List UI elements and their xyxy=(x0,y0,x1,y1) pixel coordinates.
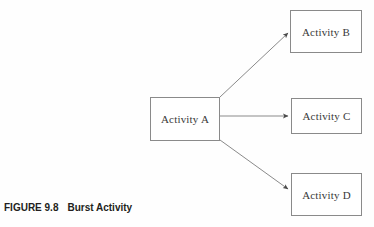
node-activity-c[interactable]: Activity C xyxy=(291,98,362,134)
figure-caption-number: FIGURE 9.8 xyxy=(4,202,58,213)
figure-container: Activity A Activity B Activity C Activit… xyxy=(0,0,374,227)
node-activity-c-label: Activity C xyxy=(302,110,350,122)
node-activity-d-label: Activity D xyxy=(302,189,351,201)
node-activity-d[interactable]: Activity D xyxy=(291,173,362,216)
arrow-activity-a-to-activity-d xyxy=(220,140,288,189)
node-activity-a-label: Activity A xyxy=(161,113,209,125)
arrow-activity-a-to-activity-b xyxy=(220,33,288,97)
node-activity-a[interactable]: Activity A xyxy=(150,97,220,141)
figure-caption: FIGURE 9.8Burst Activity xyxy=(4,202,132,213)
figure-caption-title: Burst Activity xyxy=(67,202,132,213)
node-activity-b-label: Activity B xyxy=(302,26,350,38)
node-activity-b[interactable]: Activity B xyxy=(290,10,362,53)
